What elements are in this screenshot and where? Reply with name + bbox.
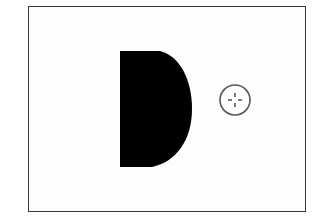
target-marker [220,85,250,115]
d-shape [120,51,192,167]
diagram-canvas [0,0,316,220]
stage [0,0,316,220]
target-circle [220,85,250,115]
